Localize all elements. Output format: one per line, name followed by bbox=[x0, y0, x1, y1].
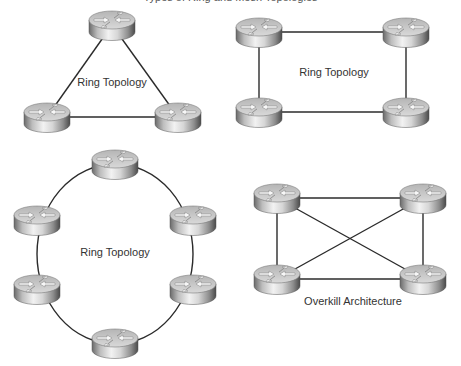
router-icon bbox=[383, 18, 429, 48]
topology-diagram-canvas bbox=[0, 0, 461, 366]
topology-label-hexagon: Ring Topology bbox=[80, 246, 150, 258]
router-icon bbox=[170, 275, 216, 305]
router-icon bbox=[383, 98, 429, 128]
router-icon bbox=[14, 206, 60, 236]
router-icon bbox=[92, 150, 138, 180]
topology-label-mesh: Overkill Architecture bbox=[304, 295, 402, 307]
router-icon bbox=[254, 265, 300, 295]
diagram-mesh bbox=[277, 198, 423, 279]
router-icon bbox=[400, 265, 446, 295]
router-icon bbox=[400, 184, 446, 214]
router-icon bbox=[92, 329, 138, 359]
router-icon bbox=[24, 103, 70, 133]
router-icon bbox=[236, 18, 282, 48]
router-icon bbox=[170, 206, 216, 236]
router-icon bbox=[236, 98, 282, 128]
router-icon bbox=[89, 11, 135, 41]
router-icon bbox=[254, 184, 300, 214]
topology-label-square: Ring Topology bbox=[299, 66, 369, 78]
router-icon bbox=[155, 103, 201, 133]
router-icon bbox=[14, 275, 60, 305]
topology-label-triangle: Ring Topology bbox=[77, 76, 147, 88]
